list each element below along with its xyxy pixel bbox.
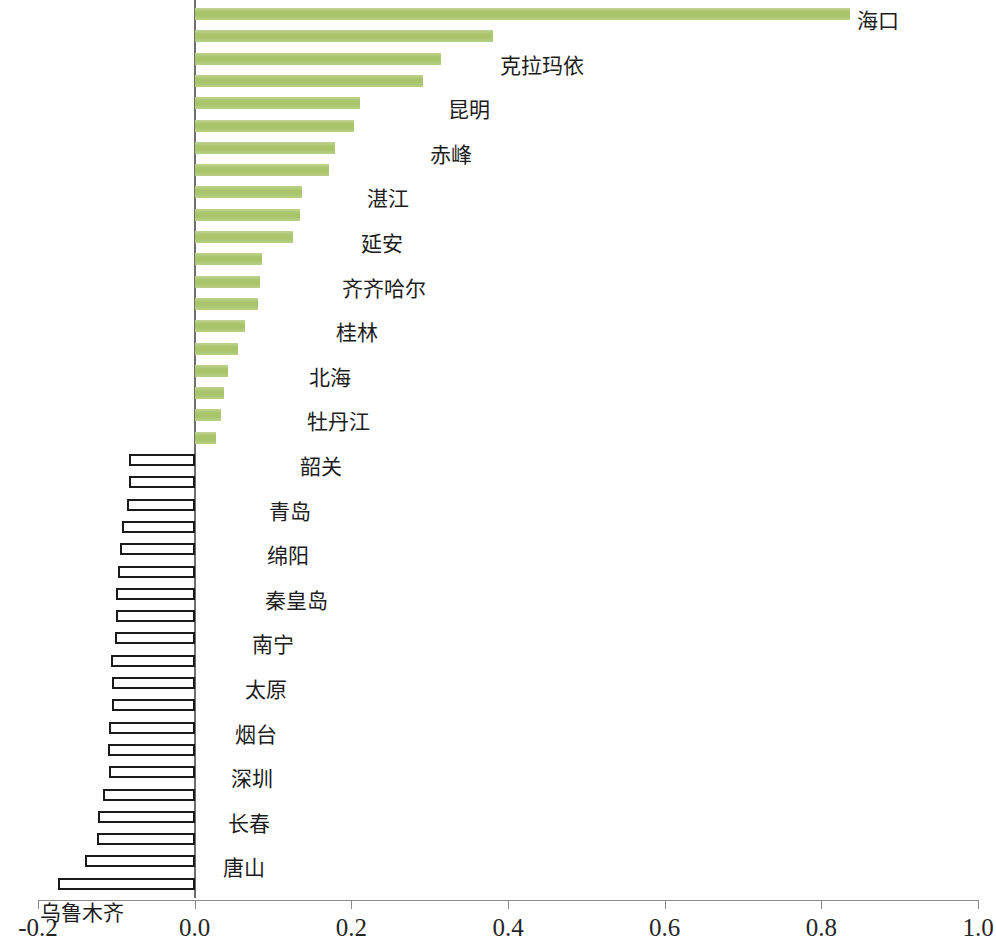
bar-row: 深圳 <box>0 387 996 399</box>
bar-negative <box>108 744 195 756</box>
bar-row: 乌鲁木齐 <box>0 454 996 466</box>
bar-row: 海口 <box>0 8 996 20</box>
bar-negative <box>115 632 195 644</box>
bar-negative <box>127 499 195 511</box>
bar-row: 北海 <box>0 186 996 198</box>
bar-negative <box>109 722 195 734</box>
x-axis-tick <box>978 900 979 909</box>
x-axis-tick <box>508 900 509 909</box>
bar-row: 韶关 <box>0 231 996 243</box>
bar-negative <box>85 855 195 867</box>
x-axis-tick <box>351 900 352 909</box>
horizontal-bar-chart: 海口克拉玛依昆明赤峰湛江延安齐齐哈尔桂林北海牡丹江韶关青岛绵阳秦皇岛南宁太原烟台… <box>0 0 996 943</box>
bar-positive <box>195 97 360 109</box>
bar-positive <box>195 164 330 176</box>
bar-negative <box>97 833 195 845</box>
bar-row: 牡丹江 <box>0 209 996 221</box>
bar-negative <box>129 476 195 488</box>
x-axis-tick <box>665 900 666 909</box>
bar-negative <box>111 655 195 667</box>
bar-row: 鞍山 <box>0 610 996 622</box>
bar-row: 平顶山 <box>0 699 996 711</box>
bar-negative <box>129 454 195 466</box>
bar-negative <box>116 610 195 622</box>
bar-row: 长治 <box>0 744 996 756</box>
bar-positive <box>195 120 355 132</box>
bar-positive <box>195 387 225 399</box>
bar-row: 烟台 <box>0 365 996 377</box>
bar-row: 济宁 <box>0 766 996 778</box>
bar-row: 潍坊 <box>0 789 996 801</box>
bar-positive <box>195 343 238 355</box>
bar-positive <box>195 209 300 221</box>
bar-positive <box>195 432 216 444</box>
bar-row: 唐山 <box>0 432 996 444</box>
x-axis-tick-label: -0.2 <box>18 915 58 940</box>
bar-positive <box>195 30 493 42</box>
bar-negative <box>109 766 194 778</box>
bar-row: 延安 <box>0 120 996 132</box>
bar-row: 天津 <box>0 677 996 689</box>
bar-row: 西宁 <box>0 722 996 734</box>
bar-positive <box>195 231 293 243</box>
bar-negative <box>112 677 194 689</box>
bar-row: 银川 <box>0 632 996 644</box>
bar-row: 淄博 <box>0 878 996 890</box>
bar-row: 湛江 <box>0 97 996 109</box>
bar-row: 长春 <box>0 409 996 421</box>
bar-label: 海口 <box>857 11 899 32</box>
bar-row: 绵阳 <box>0 276 996 288</box>
bar-row: 南京 <box>0 811 996 823</box>
bar-positive <box>195 186 302 198</box>
bar-negative <box>116 588 195 600</box>
bar-row: 秦皇岛 <box>0 298 996 310</box>
bar-positive <box>195 276 260 288</box>
x-axis-tick-label: 0.4 <box>492 915 523 940</box>
bar-negative <box>118 566 195 578</box>
bar-positive <box>195 409 222 421</box>
bar-row: 包头 <box>0 833 996 845</box>
x-axis-tick-label: 0.8 <box>806 915 837 940</box>
zero-value-axis <box>194 0 196 898</box>
bar-negative <box>122 521 195 533</box>
bar-negative <box>112 699 195 711</box>
bar-row: 赤峰 <box>0 75 996 87</box>
x-axis-tick-label: 1.0 <box>962 915 993 940</box>
bar-row: 马鞍山 <box>0 855 996 867</box>
bar-positive <box>195 8 850 20</box>
bar-positive <box>195 253 262 265</box>
bar-negative <box>120 543 194 555</box>
bar-row: 齐齐哈尔 <box>0 142 996 154</box>
bar-row: 太原 <box>0 343 996 355</box>
x-axis-tick <box>38 900 39 909</box>
x-axis-tick-label: 0.6 <box>649 915 680 940</box>
bar-positive <box>195 53 442 65</box>
bar-row: 日照 <box>0 588 996 600</box>
bar-row: 南宁 <box>0 320 996 332</box>
x-axis-tick-label: 0.2 <box>336 915 367 940</box>
bar-positive <box>195 320 245 332</box>
bar-negative <box>103 789 195 801</box>
bar-row: 武汉 <box>0 521 996 533</box>
bar-row: 桂林 <box>0 164 996 176</box>
bar-row: 克拉玛依 <box>0 30 996 42</box>
x-axis-tick-label: 0.0 <box>179 915 210 940</box>
bar-row: 昆明 <box>0 53 996 65</box>
bar-negative <box>98 811 195 823</box>
bar-positive <box>195 142 335 154</box>
bar-row: 西安 <box>0 655 996 667</box>
bar-row: 芜湖 <box>0 476 996 488</box>
bar-row: 安阳 <box>0 499 996 511</box>
bar-row: 青岛 <box>0 253 996 265</box>
bar-positive <box>195 298 258 310</box>
bar-positive <box>195 365 228 377</box>
bar-negative <box>58 878 194 890</box>
x-axis-tick <box>195 900 196 909</box>
bar-row: 荆州 <box>0 543 996 555</box>
bar-positive <box>195 75 423 87</box>
bar-row: 泰安 <box>0 566 996 578</box>
x-axis-tick <box>821 900 822 909</box>
plot-area: 海口克拉玛依昆明赤峰湛江延安齐齐哈尔桂林北海牡丹江韶关青岛绵阳秦皇岛南宁太原烟台… <box>0 0 996 900</box>
